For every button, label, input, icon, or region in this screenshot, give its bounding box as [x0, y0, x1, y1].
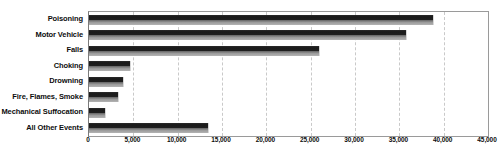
bar-row — [89, 74, 488, 90]
category-label-cell: Motor Vehicle — [0, 27, 86, 43]
value-tick-label: 35,000 — [389, 137, 408, 144]
bar-row — [89, 43, 488, 59]
bar[interactable] — [89, 46, 320, 56]
value-tick-label: 0 — [86, 137, 90, 144]
category-label-cell: Falls — [0, 42, 86, 58]
category-label: Mechanical Suffocation — [1, 108, 83, 116]
category-label: Motor Vehicle — [36, 31, 83, 39]
category-label-cell: Poisoning — [0, 11, 86, 27]
bar-chart: PoisoningMotor VehicleFallsChokingDrowni… — [0, 0, 504, 167]
category-label: Falls — [66, 46, 83, 54]
bar-row — [89, 12, 488, 28]
plot-area — [88, 11, 489, 137]
category-label: All Other Events — [26, 124, 83, 132]
value-tick-label: 5,000 — [124, 137, 140, 144]
value-tick-label: 25,000 — [300, 137, 319, 144]
bar[interactable] — [89, 30, 407, 40]
value-tick-label: 20,000 — [256, 137, 275, 144]
category-axis: PoisoningMotor VehicleFallsChokingDrowni… — [0, 11, 86, 135]
bar[interactable] — [89, 15, 434, 25]
category-label-cell: Drowning — [0, 73, 86, 89]
bar[interactable] — [89, 77, 124, 87]
category-label-cell: All Other Events — [0, 120, 86, 136]
bars-layer — [89, 12, 488, 136]
bar-row — [89, 59, 488, 75]
bar[interactable] — [89, 92, 119, 102]
category-label-cell: Fire, Flames, Smoke — [0, 89, 86, 105]
bar[interactable] — [89, 61, 131, 71]
value-tick-label: 40,000 — [433, 137, 452, 144]
bar-row — [89, 28, 488, 44]
category-label: Choking — [54, 62, 83, 70]
bar[interactable] — [89, 123, 209, 133]
value-tick-label: 15,000 — [211, 137, 230, 144]
value-tick-label: 45,000 — [477, 137, 496, 144]
bar-row — [89, 121, 488, 137]
bar-row — [89, 90, 488, 106]
category-label-cell: Choking — [0, 58, 86, 74]
bar-row — [89, 105, 488, 121]
category-label: Drowning — [49, 77, 83, 85]
bar[interactable] — [89, 108, 106, 118]
category-label: Fire, Flames, Smoke — [12, 93, 83, 101]
value-tick-label: 30,000 — [344, 137, 363, 144]
value-axis: 05,00010,00015,00020,00025,00030,00035,0… — [88, 137, 487, 151]
category-label: Poisoning — [48, 15, 83, 23]
value-tick-label: 10,000 — [167, 137, 186, 144]
category-label-cell: Mechanical Suffocation — [0, 104, 86, 120]
